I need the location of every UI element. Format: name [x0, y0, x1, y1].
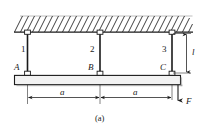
pin-joint-b	[97, 71, 103, 75]
rigid-beam	[15, 75, 183, 86]
figure-caption: (a)	[95, 114, 104, 123]
rod-label-1: 1	[21, 45, 26, 54]
rod-label-2: 2	[90, 45, 95, 54]
pin-joint-a	[25, 71, 31, 75]
dimension-extension-lines-rod-length	[173, 34, 191, 74]
figure-container: 1 2 3 A B C a a l F (a)	[0, 0, 206, 131]
dimension-span-right-label: a	[133, 88, 138, 97]
load-force-f-label: F	[186, 97, 192, 106]
dimension-rod-length-label: l	[192, 48, 195, 57]
joint-label-b: B	[88, 63, 94, 72]
dimension-span-left-label: a	[60, 88, 65, 97]
rod-label-3: 3	[162, 45, 167, 54]
pin-joint-c	[169, 71, 175, 75]
dimension-extension-lines	[28, 85, 173, 104]
pin-joint-top-rod-1	[25, 30, 31, 34]
joint-label-a: A	[14, 63, 20, 72]
engineering-diagram-canvas	[0, 0, 206, 131]
pin-joint-top-rod-2	[97, 30, 103, 34]
ceiling-support-hatching	[15, 16, 193, 32]
joint-label-c: C	[160, 63, 166, 72]
